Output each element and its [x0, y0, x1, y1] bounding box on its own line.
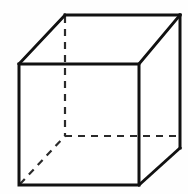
wireframe-cube-drawing [0, 0, 188, 194]
cube-figure-container [0, 0, 188, 194]
cube-faces [19, 15, 180, 185]
cube-face-front [19, 64, 139, 185]
